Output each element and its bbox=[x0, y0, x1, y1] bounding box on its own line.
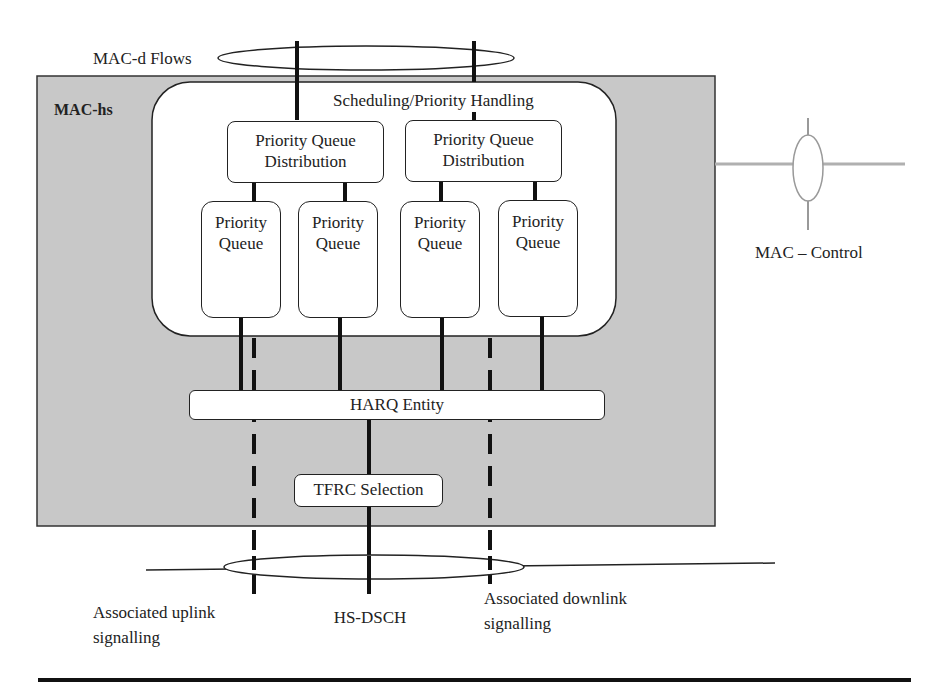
mac-hs-title: MAC-hs bbox=[54, 100, 113, 120]
uplink-signalling-label-1: Associated uplink bbox=[93, 603, 215, 623]
harq-entity: HARQ Entity bbox=[189, 390, 605, 420]
priority-queue-1: Priority Queue bbox=[201, 201, 281, 318]
downlink-signalling-label-1: Associated downlink bbox=[484, 589, 627, 609]
priority-queue-distribution-1: Priority Queue Distribution bbox=[227, 121, 384, 183]
uplink-signalling-label-2: signalling bbox=[93, 628, 160, 648]
priority-queue-2: Priority Queue bbox=[298, 201, 378, 318]
priority-queue-distribution-2: Priority Queue Distribution bbox=[405, 120, 562, 182]
pqd-line2: Distribution bbox=[228, 151, 383, 172]
pq-line1: Priority bbox=[499, 211, 577, 232]
priority-queue-4: Priority Queue bbox=[498, 200, 578, 317]
pq-line2: Queue bbox=[499, 232, 577, 253]
pq-line1: Priority bbox=[401, 212, 479, 233]
hs-dsch-label: HS-DSCH bbox=[255, 608, 485, 628]
mac-d-flows-label: MAC-d Flows bbox=[93, 49, 192, 69]
pqd-line2: Distribution bbox=[406, 150, 561, 171]
pq-line1: Priority bbox=[299, 212, 377, 233]
priority-queue-3: Priority Queue bbox=[400, 201, 480, 318]
pq-line2: Queue bbox=[401, 233, 479, 254]
downlink-signalling-label-2: signalling bbox=[484, 614, 551, 634]
mac-control-ellipse bbox=[793, 135, 823, 201]
scheduling-label: Scheduling/Priority Handling bbox=[333, 91, 534, 111]
pqd-line1: Priority Queue bbox=[228, 130, 383, 151]
pq-line2: Queue bbox=[202, 233, 280, 254]
mac-control-label: MAC – Control bbox=[755, 243, 863, 263]
tfrc-selection: TFRC Selection bbox=[294, 474, 443, 507]
pq-line2: Queue bbox=[299, 233, 377, 254]
pqd-line1: Priority Queue bbox=[406, 129, 561, 150]
transport-ellipse bbox=[224, 555, 524, 579]
mac-d-flows-ellipse bbox=[218, 46, 514, 70]
pq-line1: Priority bbox=[202, 212, 280, 233]
